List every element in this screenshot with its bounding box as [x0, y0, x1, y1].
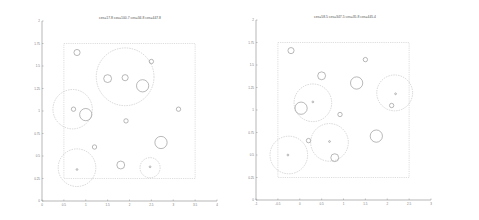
left-circle-solid [92, 145, 96, 149]
left-circle-solid [137, 80, 149, 92]
right-x-tick-label: -0.5 [275, 202, 281, 206]
left-subplot: ces=17.8 cov=100.7 ces=34.8 ces=447.8 00… [34, 16, 218, 207]
right-y-tick-label: 1.75 [248, 41, 254, 45]
left-y-tick-label: 0.5 [36, 154, 41, 158]
right-x-tick-label: -1 [255, 202, 258, 206]
left-circle-solid [155, 136, 167, 148]
right-circle-solid [363, 57, 367, 61]
left-circle-solid [122, 75, 128, 81]
right-x-tick-label: 2.5 [407, 202, 412, 206]
figure: ces=17.8 cov=100.7 ces=34.8 ces=447.8 00… [0, 0, 479, 220]
left-circle-solid [176, 107, 180, 111]
left-y-tick-label: 0.25 [34, 177, 40, 181]
right-y-tick-label: 0.75 [248, 131, 254, 135]
right-circle-solid [395, 93, 397, 95]
left-circle-solid [74, 49, 80, 55]
right-circle-solid [295, 102, 307, 114]
left-x-tick-label: 2.5 [149, 203, 154, 207]
left-circle-solid [80, 108, 92, 120]
right-circle-solid [338, 112, 342, 116]
left-circle-solid [124, 119, 128, 123]
right-circle-dashed [377, 75, 413, 111]
right-x-tick-label: 1.5 [363, 202, 368, 206]
right-circle-solid [312, 101, 314, 103]
right-y-tick-label: 2 [252, 18, 254, 22]
left-circle-solid [117, 161, 125, 169]
right-subplot: ces=58.5 ces=347.5 ces=35.8 ces=445.4 -1… [248, 15, 432, 206]
left-y-tick-label: 2 [38, 19, 40, 23]
left-x-tick-label: 4 [216, 203, 218, 207]
right-subplot-title: ces=58.5 ces=347.5 ces=35.8 ces=445.4 [314, 15, 376, 19]
left-y-tick-label: 1 [38, 109, 40, 113]
right-x-tick-label: 3 [430, 202, 432, 206]
left-x-tick-label: 0.5 [62, 203, 67, 207]
right-x-tick-label: 0 [299, 202, 301, 206]
left-circle-solid [104, 75, 112, 83]
left-x-tick-label: 0 [41, 203, 43, 207]
left-x-tick-label: 1.5 [106, 203, 111, 207]
left-y-tick-label: 0.75 [34, 132, 40, 136]
left-circle-solid [71, 107, 75, 111]
right-y-tick-label: 1.25 [248, 86, 254, 90]
left-circle-dashed [53, 90, 92, 129]
right-circle-solid [389, 103, 393, 107]
right-y-tick-label: 1.5 [250, 63, 255, 67]
left-region-box [64, 44, 195, 179]
right-x-tick-label: 2 [386, 202, 388, 206]
left-x-tick-label: 3 [172, 203, 174, 207]
right-y-tick-label: 1 [252, 108, 254, 112]
right-circle-solid [288, 48, 294, 54]
left-x-tick-label: 2 [129, 203, 131, 207]
right-circle-solid [329, 141, 331, 143]
left-y-tick-label: 1.5 [36, 64, 41, 68]
right-circle-solid [287, 154, 289, 156]
left-circle-solid [149, 166, 151, 168]
right-y-tick-label: 0.25 [248, 176, 254, 180]
left-circle-dashed [96, 48, 154, 106]
left-x-tick-label: 3.5 [193, 203, 198, 207]
right-circle-solid [306, 138, 310, 142]
left-y-tick-label: 0 [38, 199, 40, 203]
left-circle-dashed [58, 149, 96, 187]
left-y-tick-label: 1.75 [34, 42, 40, 46]
right-circle-solid [370, 130, 382, 142]
left-x-tick-label: 1 [85, 203, 87, 207]
right-circle-solid [351, 77, 363, 89]
right-x-tick-label: 1 [343, 202, 345, 206]
figure-canvas: ces=17.8 cov=100.7 ces=34.8 ces=447.8 00… [0, 0, 479, 220]
right-x-tick-label: 0.5 [320, 202, 325, 206]
left-subplot-title: ces=17.8 cov=100.7 ces=34.8 ces=447.8 [99, 16, 161, 20]
left-circle-solid [76, 169, 78, 171]
right-y-tick-label: 0.5 [250, 153, 255, 157]
left-y-tick-label: 1.25 [34, 87, 40, 91]
right-circle-solid [318, 72, 326, 80]
